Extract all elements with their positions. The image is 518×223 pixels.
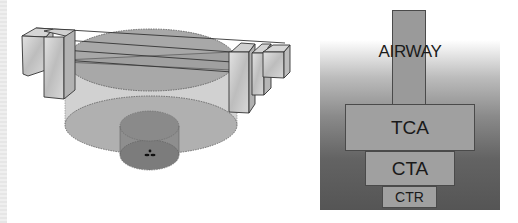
inner-cylinder-ctr bbox=[120, 111, 179, 170]
cta-label: CTA bbox=[392, 158, 429, 180]
airway-blocks-left bbox=[22, 28, 75, 99]
airway-blocks-right bbox=[229, 43, 290, 113]
ctr-label: CTR bbox=[395, 189, 424, 205]
airspace-3d-diagram bbox=[0, 0, 300, 223]
airway-label: AIRWAY bbox=[372, 42, 448, 62]
ctr-block: CTR bbox=[382, 186, 437, 208]
cta-block: CTA bbox=[365, 151, 455, 186]
airspace-section-diagram: AIRWAY TCA CTA CTR bbox=[300, 0, 518, 223]
tca-label: TCA bbox=[391, 117, 429, 139]
tca-block: TCA bbox=[345, 104, 475, 151]
